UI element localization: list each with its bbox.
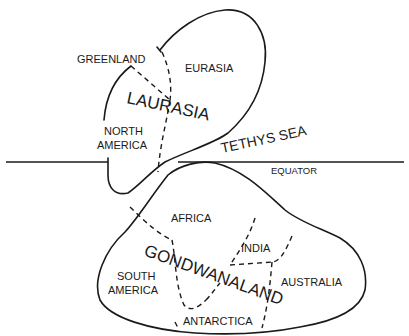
boundary-greenland-eurasia	[162, 52, 171, 100]
label-laurasia: LAURASIA	[125, 88, 212, 124]
label-antarctica: ANTARCTICA	[183, 315, 253, 327]
label-greenland: GREENLAND	[77, 53, 146, 65]
gondwanaland-outline	[98, 162, 366, 334]
boundary-antarctica-bottom	[175, 322, 178, 328]
label-australia: AUSTRALIA	[281, 276, 343, 288]
label-equator: EQUATOR	[271, 165, 317, 176]
label-north-america: AMERICA	[97, 139, 148, 151]
label-south: SOUTH	[117, 270, 156, 282]
label-south-america: AMERICA	[108, 284, 159, 296]
label-north: NORTH	[104, 125, 143, 137]
label-tethys-sea: TETHYS SEA	[219, 122, 308, 156]
pangaea-diagram: GREENLAND EURASIA LAURASIA NORTH AMERICA…	[0, 0, 409, 336]
label-india: INDIA	[241, 242, 271, 254]
label-africa: AFRICA	[171, 212, 212, 224]
boundary-southamerica-africa	[130, 207, 172, 240]
boundary-india-australia	[272, 236, 292, 262]
label-eurasia: EURASIA	[185, 62, 234, 74]
boundary-india-antarctica	[230, 262, 272, 265]
